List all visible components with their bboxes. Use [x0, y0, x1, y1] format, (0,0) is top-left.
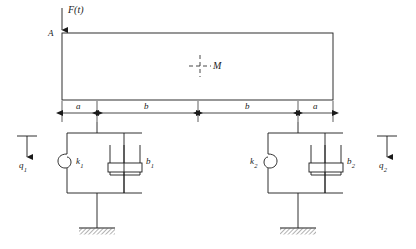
spring-label-k2-subscript: 2: [254, 162, 257, 169]
coordinate-indicator-q2: [377, 136, 397, 157]
dimension-label-a-right: a: [313, 102, 318, 111]
left-support-assembly: [58, 122, 142, 235]
dimension-label-a-left: a: [76, 102, 81, 111]
coordinate-label-q1-subscript: 1: [24, 166, 27, 173]
damper-label-b1-base: b: [146, 156, 151, 166]
coordinate-indicator-q1: [17, 136, 37, 157]
damper-label-b2-base: b: [347, 156, 352, 166]
point-a-label: A: [48, 29, 54, 38]
coordinate-label-q1: q1: [19, 161, 27, 172]
diagram-canvas: [0, 0, 416, 249]
damper-label-b2: b2: [347, 157, 355, 168]
dimension-label-b-left: b: [144, 102, 149, 111]
damper-label-b2-subscript: 2: [352, 162, 355, 169]
dimension-line-group: [62, 101, 333, 122]
mechanical-schematic-figure: F(t) A M a b b a k1 b1 k2 b2 q1 q2: [0, 0, 416, 249]
spring-label-k1: k1: [76, 157, 83, 168]
dimension-label-b-right: b: [245, 102, 250, 111]
force-label-ft: F(t): [68, 5, 84, 15]
coordinate-label-q2-subscript: 2: [384, 166, 387, 173]
coordinate-label-q2: q2: [379, 161, 387, 172]
coordinate-label-q2-base: q: [379, 160, 384, 170]
center-of-mass-crosshair: [189, 55, 211, 77]
rigid-beam: [62, 33, 333, 100]
spring-label-k2: k2: [250, 157, 257, 168]
damper-label-b1-subscript: 1: [151, 162, 154, 169]
damper-label-b1: b1: [146, 157, 154, 168]
spring-label-k1-subscript: 1: [80, 162, 83, 169]
coordinate-label-q1-base: q: [19, 160, 24, 170]
right-support-assembly: [264, 122, 343, 235]
mass-label-m: M: [213, 61, 221, 71]
